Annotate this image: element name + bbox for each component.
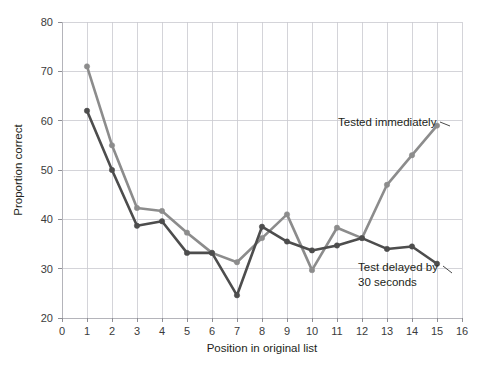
data-point bbox=[234, 260, 239, 265]
chart-svg: 012345678910111213141516 20304050607080 … bbox=[0, 0, 498, 367]
x-tick-label: 0 bbox=[59, 325, 65, 337]
data-point bbox=[134, 223, 139, 228]
data-point bbox=[259, 224, 264, 229]
data-point bbox=[284, 212, 289, 217]
data-point bbox=[184, 230, 189, 235]
y-tick-label: 80 bbox=[41, 16, 53, 28]
data-point bbox=[384, 182, 389, 187]
x-axis-title: Position in original list bbox=[207, 342, 318, 354]
y-axis-title: Proportion correct bbox=[12, 123, 24, 215]
data-point bbox=[109, 167, 114, 172]
y-tick-label: 40 bbox=[41, 213, 53, 225]
data-point bbox=[134, 205, 139, 210]
x-tick-label: 2 bbox=[109, 325, 115, 337]
data-point bbox=[309, 267, 314, 272]
data-point bbox=[259, 235, 264, 240]
annotation-tested-immediately-label: Tested immediately bbox=[338, 116, 437, 128]
x-tick-label: 16 bbox=[456, 325, 468, 337]
x-tick-label: 1 bbox=[84, 325, 90, 337]
data-point bbox=[184, 250, 189, 255]
x-tick-label: 5 bbox=[184, 325, 190, 337]
x-tick-label: 13 bbox=[381, 325, 393, 337]
x-tick-label: 11 bbox=[331, 325, 342, 337]
data-point bbox=[209, 250, 214, 255]
x-tick-label: 3 bbox=[134, 325, 140, 337]
data-point bbox=[109, 143, 114, 148]
data-point bbox=[234, 293, 239, 298]
x-tick-label: 7 bbox=[234, 325, 240, 337]
x-tick-label: 10 bbox=[306, 325, 318, 337]
data-point bbox=[334, 225, 339, 230]
data-point bbox=[334, 243, 339, 248]
data-point bbox=[409, 244, 414, 249]
data-point bbox=[159, 219, 164, 224]
data-point bbox=[159, 208, 164, 213]
y-tick-label: 20 bbox=[41, 312, 53, 324]
annotation-test-delayed-label-line2: 30 seconds bbox=[358, 276, 417, 288]
data-point bbox=[84, 108, 89, 113]
data-point bbox=[409, 153, 414, 158]
chart-background bbox=[0, 0, 498, 367]
x-tick-label: 9 bbox=[284, 325, 290, 337]
line-chart: 012345678910111213141516 20304050607080 … bbox=[0, 0, 498, 367]
y-tick-label: 30 bbox=[41, 263, 53, 275]
x-tick-label: 12 bbox=[356, 325, 368, 337]
y-tick-label: 60 bbox=[41, 115, 53, 127]
annotation-test-delayed-label-line1: Test delayed by bbox=[358, 261, 438, 273]
data-point bbox=[284, 239, 289, 244]
annotation-tested-immediately: Tested immediately bbox=[338, 116, 450, 128]
data-point bbox=[309, 248, 314, 253]
y-tick-label: 50 bbox=[41, 164, 53, 176]
data-point bbox=[359, 235, 364, 240]
x-tick-label: 4 bbox=[159, 325, 165, 337]
x-tick-label: 15 bbox=[431, 325, 443, 337]
x-tick-label: 14 bbox=[406, 325, 418, 337]
x-tick-label: 8 bbox=[259, 325, 265, 337]
x-tick-label: 6 bbox=[209, 325, 215, 337]
y-tick-label: 70 bbox=[41, 65, 53, 77]
data-point bbox=[84, 64, 89, 69]
data-point bbox=[384, 246, 389, 251]
